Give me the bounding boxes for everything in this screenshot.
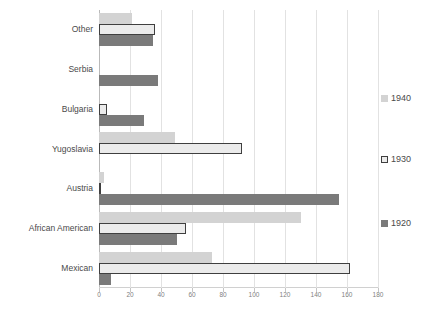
bar-1930-austria xyxy=(99,183,101,194)
bar-1930-other xyxy=(99,24,155,35)
x-tick-label: 160 xyxy=(342,292,353,299)
gridline xyxy=(378,10,379,288)
category-label-yugoslavia: Yugoslavia xyxy=(52,145,93,154)
category-label-other: Other xyxy=(72,25,93,34)
bar-1940-other xyxy=(99,13,132,24)
bar-1920-other xyxy=(99,35,153,46)
bar-group xyxy=(99,248,378,288)
bar-1940-yugoslavia xyxy=(99,132,175,143)
bar-1940-african-american xyxy=(99,212,301,223)
bar-group xyxy=(99,89,378,129)
legend-swatch-1920 xyxy=(381,220,388,227)
plot-area xyxy=(99,10,378,288)
bar-slot xyxy=(99,194,378,205)
legend-label: 1940 xyxy=(391,94,411,103)
bar-slot xyxy=(99,93,378,104)
legend-swatch-1940 xyxy=(381,95,388,102)
legend-label: 1920 xyxy=(391,219,411,228)
bar-group xyxy=(99,129,378,169)
bar-group xyxy=(99,10,378,50)
bar-slot xyxy=(99,104,378,115)
bar-slot xyxy=(99,53,378,64)
category-axis: OtherSerbiaBulgariaYugoslaviaAustriaAfri… xyxy=(0,10,93,288)
bar-slot xyxy=(99,64,378,75)
x-tick-label: 120 xyxy=(280,292,291,299)
bar-slot xyxy=(99,154,378,165)
bar-1930-african-american xyxy=(99,223,186,234)
bar-1920-serbia xyxy=(99,75,158,86)
bar-1920-austria xyxy=(99,194,339,205)
bar-slot xyxy=(99,234,378,245)
bar-group xyxy=(99,50,378,90)
x-tick-label: 20 xyxy=(126,292,133,299)
bar-slot xyxy=(99,263,378,274)
chart-legend: 194019301920 xyxy=(381,0,435,320)
bar-1930-bulgaria xyxy=(99,104,107,115)
bar-slot xyxy=(99,172,378,183)
bar-chart: OtherSerbiaBulgariaYugoslaviaAustriaAfri… xyxy=(0,0,435,320)
x-tick-label: 80 xyxy=(219,292,226,299)
category-label-serbia: Serbia xyxy=(68,65,93,74)
bar-1920-bulgaria xyxy=(99,115,144,126)
bar-1920-mexican xyxy=(99,274,111,285)
bar-slot xyxy=(99,274,378,285)
bar-slot xyxy=(99,35,378,46)
bar-slot xyxy=(99,183,378,194)
category-label-african-american: African American xyxy=(29,224,93,233)
category-label-austria: Austria xyxy=(67,184,93,193)
bar-1940-mexican xyxy=(99,252,212,263)
category-label-mexican: Mexican xyxy=(61,264,93,273)
legend-item-1940[interactable]: 1940 xyxy=(381,94,411,103)
x-tick-label: 0 xyxy=(97,292,101,299)
x-tick-label: 40 xyxy=(157,292,164,299)
bar-1930-yugoslavia xyxy=(99,143,242,154)
bar-group xyxy=(99,209,378,249)
x-tick-label: 100 xyxy=(249,292,260,299)
bar-1940-austria xyxy=(99,172,104,183)
x-tick-label: 140 xyxy=(311,292,322,299)
bar-1930-mexican xyxy=(99,263,350,274)
bar-slot xyxy=(99,212,378,223)
bar-slot xyxy=(99,132,378,143)
bar-slot xyxy=(99,143,378,154)
bar-slot xyxy=(99,223,378,234)
legend-swatch-1930 xyxy=(381,156,388,163)
value-axis-labels: 020406080100120140160180 xyxy=(99,292,378,306)
bar-1920-african-american xyxy=(99,234,177,245)
bar-group xyxy=(99,169,378,209)
bar-slot xyxy=(99,13,378,24)
bar-slot xyxy=(99,252,378,263)
legend-label: 1930 xyxy=(391,155,411,164)
legend-item-1930[interactable]: 1930 xyxy=(381,155,411,164)
bar-slot xyxy=(99,115,378,126)
category-label-bulgaria: Bulgaria xyxy=(62,105,93,114)
bar-slot xyxy=(99,75,378,86)
legend-item-1920[interactable]: 1920 xyxy=(381,219,411,228)
x-tick-label: 60 xyxy=(188,292,195,299)
bar-slot xyxy=(99,24,378,35)
